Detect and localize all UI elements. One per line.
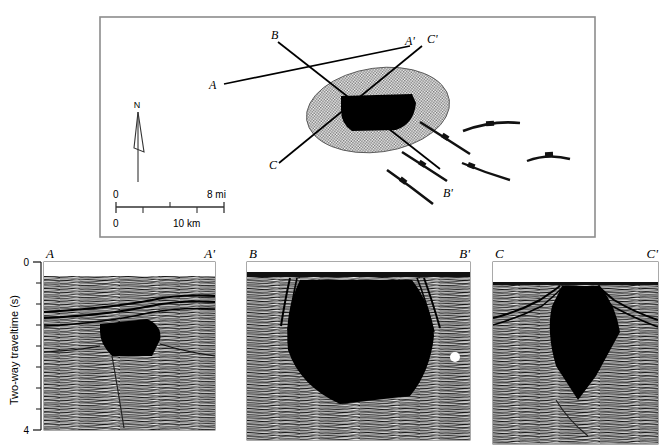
section-b-right-label: B'	[459, 246, 470, 261]
scale-bottom-center-label: 10 km	[173, 218, 200, 229]
section-c: C C'	[493, 246, 658, 444]
section-b-image	[247, 262, 470, 440]
map-label-b-prime: B'	[443, 186, 453, 200]
section-a-image	[44, 262, 215, 430]
scale-top-left-label: 0	[113, 189, 119, 200]
map-label-a: A	[208, 78, 217, 92]
figure-canvas: A A' B B' C C' N 0 8 mi 0 10 km Two-way …	[0, 0, 669, 447]
section-c-right-label: C'	[647, 246, 659, 261]
figure-root: A A' B B' C C' N 0 8 mi 0 10 km Two-way …	[0, 0, 669, 447]
section-c-left-label: C	[495, 246, 504, 261]
axis-title: Two-way traveltime (s)	[8, 295, 20, 405]
section-a: A A'	[44, 246, 215, 430]
map-label-a-prime: A'	[404, 34, 415, 48]
section-c-image	[493, 262, 658, 444]
map-label-b: B	[271, 28, 279, 42]
white-spot-marker	[450, 352, 460, 362]
scale-bottom-left-label: 0	[113, 218, 119, 229]
axis-tick-4: 4	[23, 425, 29, 436]
section-b: B B'	[247, 246, 470, 440]
section-a-left-label: A	[45, 246, 54, 261]
north-arrow-label: N	[134, 100, 141, 110]
section-b-left-label: B	[249, 246, 257, 261]
map-label-c-prime: C'	[427, 32, 438, 46]
map-panel: A A' B B' C C' N 0 8 mi 0 10 km	[100, 17, 595, 237]
axis-tick-0: 0	[23, 257, 29, 268]
section-a-right-label: A'	[203, 246, 215, 261]
section-a-anomaly	[100, 319, 160, 356]
map-label-c: C	[269, 158, 278, 172]
scale-top-right-label: 8 mi	[207, 189, 226, 200]
